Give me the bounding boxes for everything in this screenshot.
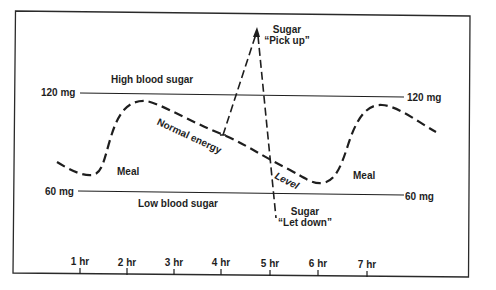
- tick-label-1hr: 1 hr: [71, 256, 89, 267]
- sugar-pickup-annotation: Sugar “Pick up”: [262, 24, 312, 46]
- sugar-letdown-line: [258, 36, 276, 218]
- tick-label-4hr: 4 hr: [212, 257, 230, 268]
- letdown-line1: Sugar: [275, 206, 335, 217]
- pickup-line2: “Pick up”: [262, 35, 312, 46]
- low-threshold-line: [78, 191, 404, 195]
- pickup-line1: Sugar: [262, 24, 312, 35]
- tick-label-7hr: 7 hr: [358, 259, 376, 270]
- high-threshold-value-right: 120 mg: [407, 92, 441, 103]
- meal-label-2: Meal: [353, 170, 375, 181]
- meal-label-1: Meal: [117, 166, 139, 177]
- energy-level-curve: [57, 101, 436, 183]
- high-threshold-line: [80, 93, 404, 97]
- tick-label-3hr: 3 hr: [165, 257, 183, 268]
- sugar-letdown-annotation: Sugar “Let down”: [275, 206, 335, 228]
- low-threshold-value-left: 60 mg: [45, 186, 74, 197]
- blood-sugar-diagram: 120 mg 120 mg High blood sugar 60 mg 60 …: [0, 0, 496, 290]
- low-blood-sugar-label: Low blood sugar: [138, 198, 218, 209]
- tick-label-5hr: 5 hr: [261, 258, 279, 269]
- tick-label-2hr: 2 hr: [118, 257, 136, 268]
- sugar-pickup-line: [220, 34, 256, 135]
- high-threshold-value-left: 120 mg: [41, 87, 75, 98]
- letdown-line2: “Let down”: [275, 217, 335, 228]
- high-blood-sugar-label: High blood sugar: [111, 74, 193, 85]
- low-threshold-value-right: 60 mg: [405, 191, 434, 202]
- arrow-up-icon: [253, 27, 260, 37]
- tick-label-6hr: 6 hr: [309, 258, 327, 269]
- diagram-canvas: [0, 0, 496, 290]
